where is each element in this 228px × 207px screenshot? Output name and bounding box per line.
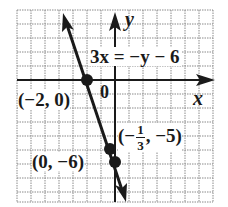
label-suffix: , −5) — [146, 125, 182, 146]
y-axis-label: y — [125, 9, 134, 29]
x-axis-label: x — [193, 88, 203, 108]
label-prefix: (− — [118, 125, 135, 146]
point-label-neg2-0: (−2, 0) — [18, 90, 70, 109]
point-0-neg6 — [109, 156, 121, 168]
fraction-numerator: 1 — [136, 123, 145, 138]
equation-label: 3x = −y − 6 — [88, 47, 181, 66]
point-neg1third-neg5 — [104, 143, 116, 155]
point-label-0-neg6: (0, −6) — [32, 152, 84, 171]
fraction: 13 — [136, 123, 145, 152]
point-label-neg1third-neg5: (−13, −5) — [118, 123, 182, 152]
point-neg2-0 — [81, 74, 93, 86]
origin-label: 0 — [100, 83, 109, 101]
fraction-denominator: 3 — [136, 138, 145, 152]
equation-text: 3x = −y − 6 — [90, 46, 179, 67]
